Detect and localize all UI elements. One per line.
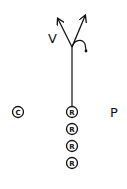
p-label: P xyxy=(110,105,118,120)
left-route-arrow xyxy=(58,19,72,47)
circled-r-marker: R xyxy=(67,158,78,169)
svg-text:R: R xyxy=(69,126,75,134)
v-label: V xyxy=(48,31,57,46)
circled-r-marker: R xyxy=(67,124,78,135)
svg-text:R: R xyxy=(69,109,75,117)
play-diagram: V C R R R R P xyxy=(0,0,127,189)
circled-r-marker: R xyxy=(67,141,78,152)
svg-text:R: R xyxy=(69,143,75,151)
svg-text:C: C xyxy=(15,109,20,117)
circled-r-marker: R xyxy=(67,107,78,118)
svg-text:R: R xyxy=(69,160,75,168)
circled-c-marker: C xyxy=(13,107,24,118)
hook-end-dot xyxy=(85,50,88,53)
